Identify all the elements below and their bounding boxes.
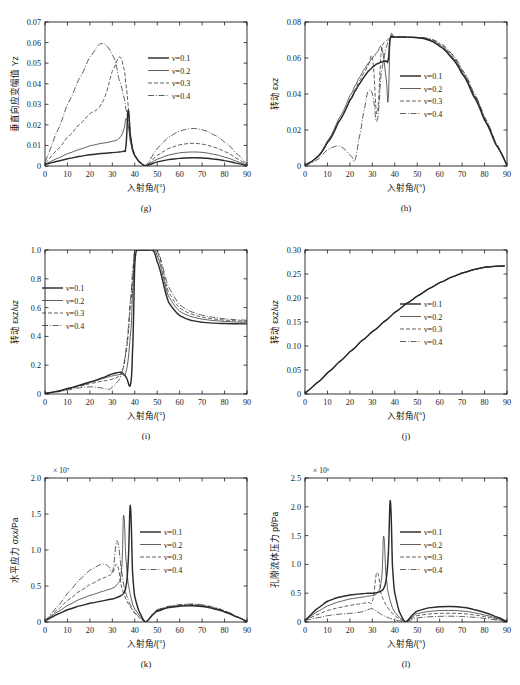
y-axis-label: 水平应力 σxx/Pa bbox=[9, 517, 20, 582]
x-tick-label: 90 bbox=[243, 398, 251, 407]
x-tick-label: 20 bbox=[86, 170, 94, 179]
x-tick-label: 80 bbox=[480, 170, 488, 179]
x-tick-label: 10 bbox=[63, 626, 71, 635]
x-tick-label: 70 bbox=[458, 626, 466, 635]
x-tick-label: 90 bbox=[503, 170, 511, 179]
panel-caption: (g) bbox=[141, 203, 152, 213]
series-curve bbox=[45, 505, 247, 621]
y-tick-label: 0.04 bbox=[27, 80, 41, 89]
curves-group bbox=[305, 33, 507, 165]
legend-label-3: ν=0.3 bbox=[164, 553, 182, 562]
legend: ν=0.1ν=0.2ν=0.3ν=0.4 bbox=[400, 528, 442, 575]
plot-frame bbox=[305, 22, 507, 166]
y-tick-label: 0.02 bbox=[27, 121, 41, 130]
y-tick-label: 0 bbox=[297, 618, 301, 627]
legend-label-3: ν=0.3 bbox=[424, 553, 442, 562]
x-tick-label: 60 bbox=[436, 398, 444, 407]
x-axis-label: 入射角/(°) bbox=[387, 638, 426, 649]
legend-label-3: ν=0.3 bbox=[424, 97, 442, 106]
series-curve bbox=[45, 564, 247, 622]
x-tick-label: 80 bbox=[480, 626, 488, 635]
figure-panel-grid: 010203040506070809000.010.020.030.040.05… bbox=[0, 0, 520, 685]
legend-label-3: ν=0.3 bbox=[172, 79, 190, 88]
x-tick-label: 0 bbox=[43, 398, 47, 407]
plot-frame bbox=[305, 478, 507, 622]
series-curve bbox=[45, 110, 247, 165]
x-tick-label: 60 bbox=[436, 170, 444, 179]
series-curve bbox=[305, 266, 505, 393]
y-axis-exponent: × 10⁶ bbox=[313, 466, 330, 475]
legend: ν=0.1ν=0.2ν=0.3ν=0.4 bbox=[148, 54, 190, 101]
legend-label-3: ν=0.3 bbox=[424, 325, 442, 334]
y-tick-label: 0 bbox=[37, 618, 41, 627]
y-tick-label: 1.5 bbox=[31, 510, 41, 519]
y-tick-label: 0.5 bbox=[31, 582, 41, 591]
x-tick-label: 0 bbox=[43, 626, 47, 635]
curves-group bbox=[45, 44, 247, 166]
y-tick-label: 1.0 bbox=[31, 546, 41, 555]
series-curve bbox=[305, 266, 505, 393]
y-tick-label: 0.03 bbox=[27, 100, 41, 109]
y-tick-label: 0.06 bbox=[27, 39, 41, 48]
y-tick-label: 0.4 bbox=[31, 332, 41, 341]
series-curve bbox=[45, 119, 247, 166]
x-tick-label: 50 bbox=[153, 170, 161, 179]
legend-label-4: ν=0.4 bbox=[172, 92, 190, 101]
y-axis-label: 转动 εxz/uz bbox=[269, 300, 280, 344]
plot-frame bbox=[305, 250, 507, 394]
y-tick-label: 0.2 bbox=[31, 361, 41, 370]
legend-label-1: ν=0.1 bbox=[172, 54, 190, 63]
y-tick-label: 0.01 bbox=[27, 141, 41, 150]
x-tick-label: 10 bbox=[63, 398, 71, 407]
x-axis-label: 入射角/(°) bbox=[127, 638, 166, 649]
y-tick-label: 0 bbox=[37, 162, 41, 171]
legend: ν=0.1ν=0.2ν=0.3ν=0.4 bbox=[140, 528, 182, 575]
x-tick-label: 10 bbox=[63, 170, 71, 179]
y-tick-label: 1.0 bbox=[291, 560, 301, 569]
series-curve bbox=[305, 266, 505, 393]
legend-label-1: ν=0.1 bbox=[164, 528, 182, 537]
y-tick-label: 0.08 bbox=[287, 18, 301, 27]
y-tick-label: 1.5 bbox=[291, 532, 301, 541]
x-tick-label: 50 bbox=[413, 170, 421, 179]
curves-group bbox=[45, 505, 247, 621]
chart-panel-j: 010203040506070809000.050.100.150.200.25… bbox=[260, 228, 520, 456]
x-tick-label: 20 bbox=[86, 398, 94, 407]
legend-label-1: ν=0.1 bbox=[424, 300, 442, 309]
x-tick-label: 40 bbox=[131, 626, 139, 635]
x-tick-label: 60 bbox=[436, 626, 444, 635]
legend: ν=0.1ν=0.2ν=0.3ν=0.4 bbox=[400, 300, 442, 347]
panel-caption: (h) bbox=[401, 203, 412, 213]
y-tick-label: 2.0 bbox=[31, 474, 41, 483]
y-axis-label: 转动 εxz/uz bbox=[9, 300, 20, 344]
series-curve bbox=[305, 500, 507, 621]
x-tick-label: 80 bbox=[220, 170, 228, 179]
x-tick-label: 30 bbox=[368, 626, 376, 635]
y-tick-label: 0.5 bbox=[291, 589, 301, 598]
x-tick-label: 70 bbox=[458, 170, 466, 179]
y-tick-label: 0.07 bbox=[27, 18, 41, 27]
legend-label-1: ν=0.1 bbox=[424, 72, 442, 81]
x-axis-label: 入射角/(°) bbox=[127, 182, 166, 193]
x-axis-label: 入射角/(°) bbox=[387, 410, 426, 421]
panel-caption: (i) bbox=[142, 431, 151, 441]
x-tick-label: 30 bbox=[108, 398, 116, 407]
y-tick-label: 0 bbox=[297, 390, 301, 399]
y-tick-label: 0.05 bbox=[27, 59, 41, 68]
x-tick-label: 0 bbox=[43, 170, 47, 179]
series-curve bbox=[305, 266, 505, 393]
x-tick-label: 10 bbox=[323, 626, 331, 635]
legend: ν=0.1ν=0.2ν=0.3ν=0.4 bbox=[400, 72, 442, 119]
series-curve bbox=[305, 572, 507, 621]
x-tick-label: 20 bbox=[86, 626, 94, 635]
legend-label-4: ν=0.4 bbox=[424, 566, 442, 575]
legend-label-2: ν=0.2 bbox=[164, 541, 182, 550]
x-tick-label: 20 bbox=[346, 398, 354, 407]
x-tick-label: 90 bbox=[243, 626, 251, 635]
legend-label-4: ν=0.4 bbox=[164, 566, 182, 575]
y-tick-label: 0 bbox=[297, 162, 301, 171]
chart-panel-i: 010203040506070809000.20.40.60.81.0ν=0.1… bbox=[0, 228, 260, 456]
x-tick-label: 40 bbox=[391, 626, 399, 635]
chart-panel-l: 010203040506070809000.51.01.52.02.5× 10⁶… bbox=[260, 456, 520, 685]
x-tick-label: 80 bbox=[220, 626, 228, 635]
